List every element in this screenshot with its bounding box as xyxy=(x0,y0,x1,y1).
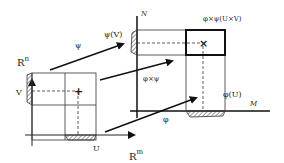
set-v-hatch xyxy=(27,73,32,105)
product-arrow xyxy=(100,61,172,80)
psi-arrow xyxy=(50,44,123,70)
phi-u-label: φ(U) xyxy=(223,90,242,99)
psi-label: ψ xyxy=(75,41,81,50)
product-map-label: φ×ψ xyxy=(143,75,160,83)
phi-u-hatch xyxy=(186,111,225,117)
rm-axis-label: Rm xyxy=(129,148,144,162)
product-image-label: φ×ψ(U×V) xyxy=(203,15,242,23)
point-marker-plus: + xyxy=(74,85,83,98)
set-u-hatch xyxy=(65,135,96,140)
manifold-chart-diagram: + Rn V U Rm × N M ψ(V) xyxy=(0,0,284,163)
left-space: + Rn V U Rm xyxy=(15,55,144,162)
psi-v-label: ψ(V) xyxy=(104,30,122,39)
rn-axis-label: Rn xyxy=(17,55,30,68)
v-label: V xyxy=(15,88,22,97)
phi-arrow xyxy=(105,98,196,132)
psi-v-hatch xyxy=(131,30,137,55)
point-marker-cross: × xyxy=(199,37,208,50)
m-axis-label: M xyxy=(249,100,258,108)
phi-label: φ xyxy=(163,115,169,124)
n-axis-label: N xyxy=(140,10,148,18)
product-region-outline xyxy=(32,73,96,140)
u-label: U xyxy=(93,144,100,153)
